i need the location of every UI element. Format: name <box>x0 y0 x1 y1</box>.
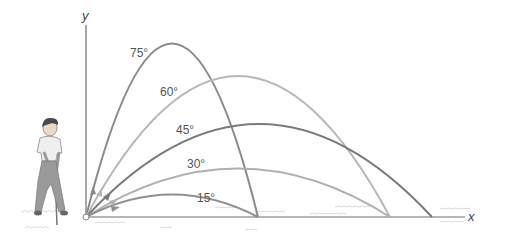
x-axis-label: x <box>467 209 475 224</box>
label-15: 15° <box>197 191 215 205</box>
golfer-shoe-right <box>60 211 68 216</box>
arrow-75-icon <box>90 186 96 195</box>
label-60: 60° <box>160 85 178 99</box>
label-30: 30° <box>187 157 205 171</box>
golfer-shoe-left <box>34 211 42 216</box>
label-45: 45° <box>176 123 194 137</box>
golfer-figure <box>34 118 68 225</box>
golfer-pants <box>35 161 65 212</box>
trajectory-15 <box>86 195 258 218</box>
trajectory-30 <box>86 169 390 218</box>
label-75: 75° <box>130 46 148 60</box>
y-axis-label: y <box>81 8 90 23</box>
projectile-diagram: y x 75° 60° 45° 30° 15° <box>0 0 505 246</box>
ball <box>83 214 89 220</box>
arrow-15-icon <box>111 206 120 212</box>
